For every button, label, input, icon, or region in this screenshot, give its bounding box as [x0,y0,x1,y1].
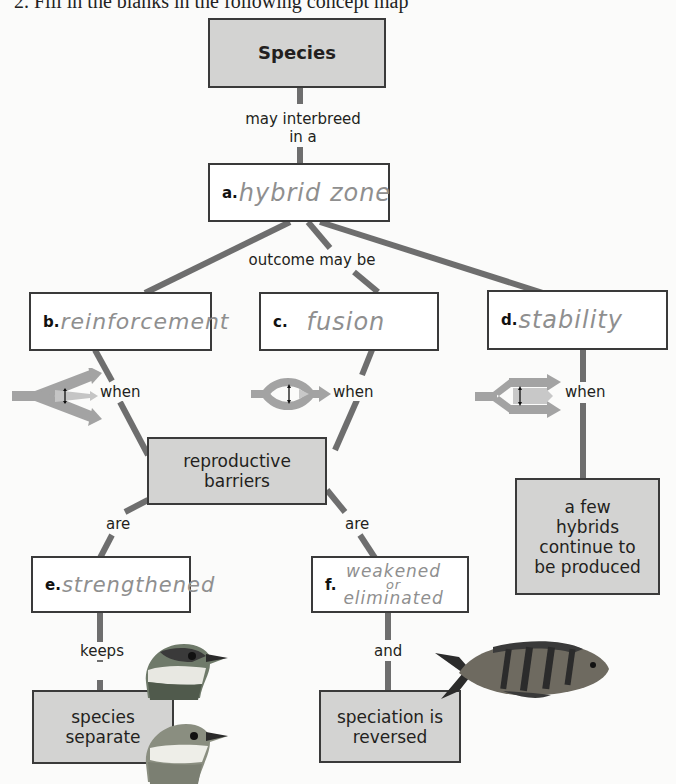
node-c-letter: c. [273,313,288,331]
hybrids-line-3: continue to [534,537,641,557]
node-a-letter: a. [222,184,238,202]
node-f-answer-line-3: eliminated [343,590,443,606]
node-reproductive-barriers: reproductive barriers [147,437,327,505]
node-d-stability[interactable]: d. stability [487,290,668,350]
node-e-answer[interactable]: strengthened [62,573,215,597]
separate-line-1: species [65,707,140,727]
are-label-f: are [343,515,371,533]
node-b-reinforcement[interactable]: b. reinforcement [29,292,212,351]
reversed-line-2: reversed [337,727,443,747]
node-species-label: Species [258,43,336,63]
bird-head-icon [140,640,228,702]
node-a-answer[interactable]: hybrid zone [239,179,391,207]
reversed-line-1: speciation is [337,707,443,727]
node-species: Species [208,18,386,88]
link-may-interbreed: may interbreed in a [236,110,370,146]
node-c-fusion[interactable]: c. fusion [259,292,439,351]
link-keeps: keeps [78,642,126,660]
when-label-d: when [563,383,608,401]
node-e-letter: e. [45,576,61,594]
node-f-weakened-eliminated[interactable]: f. weakened or eliminated [311,556,469,613]
link-outcome-may-be: outcome may be [245,251,379,269]
merging-arrows-icon [247,372,331,416]
link-and: and [372,642,404,660]
when-label-b: when [98,383,143,401]
diverging-arrows-icon [10,368,105,430]
hybrids-line-1: a few [534,497,641,517]
parallel-arrows-icon [473,374,565,418]
hybrids-line-2: hybrids [534,517,641,537]
node-d-letter: d. [501,311,517,329]
barriers-line-1: reproductive [183,451,291,471]
hybrids-line-4: be produced [534,557,641,577]
link-line-2: in a [238,128,368,146]
barriers-line-2: barriers [183,471,291,491]
node-b-answer[interactable]: reinforcement [60,309,229,334]
node-e-strengthened[interactable]: e. strengthened [31,556,191,613]
node-b-letter: b. [43,313,59,331]
node-a-hybrid-zone[interactable]: a. hybrid zone [208,163,390,222]
node-c-answer[interactable]: fusion [307,308,386,336]
node-f-answer[interactable]: weakened or eliminated [343,563,443,606]
are-label-e: are [104,515,132,533]
separate-line-2: separate [65,727,140,747]
bird-head-icon [140,720,228,784]
fish-icon [433,635,613,710]
node-f-letter: f. [325,576,336,594]
node-d-answer[interactable]: stability [518,306,622,334]
when-label-c: when [331,383,376,401]
node-hybrids-continue: a few hybrids continue to be produced [515,478,660,595]
link-line-1: may interbreed [238,110,368,128]
